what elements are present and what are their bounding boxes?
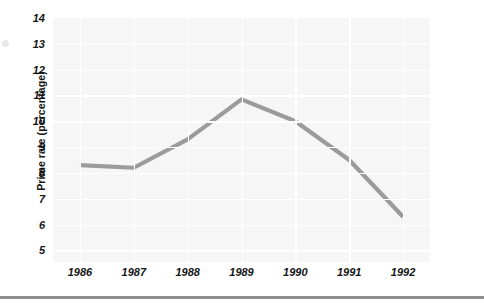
vertical-gridline [134, 18, 135, 262]
y-tick-label: 14 [33, 12, 45, 24]
x-tick-label: 1990 [283, 266, 307, 278]
x-tick-label: 1991 [337, 266, 361, 278]
vertical-gridline [349, 18, 350, 262]
y-tick-label: 6 [39, 219, 45, 231]
vertical-gridline [188, 18, 189, 262]
y-tick-label: 11 [34, 89, 45, 101]
y-tick-label: 12 [33, 64, 45, 76]
x-tick-label: 1992 [391, 266, 415, 278]
y-tick-label: 5 [39, 244, 45, 256]
x-tick-label: 1987 [122, 266, 146, 278]
prime-rate-line-chart: Prime rate (percentage) 141312111098765 … [0, 0, 484, 308]
x-tick-label: 1986 [68, 266, 92, 278]
vertical-gridline [242, 18, 243, 262]
y-axis-tick-labels: 141312111098765 [0, 0, 52, 308]
y-tick-label: 13 [33, 38, 45, 50]
y-tick-label: 9 [39, 141, 45, 153]
bottom-divider-rule [0, 296, 484, 299]
y-tick-label: 7 [39, 193, 45, 205]
x-tick-label: 1988 [175, 266, 199, 278]
x-axis-tick-labels: 1986198719881989199019911992 [53, 266, 430, 288]
y-tick-label: 8 [39, 167, 45, 179]
x-tick-label: 1989 [229, 266, 253, 278]
vertical-gridline [80, 18, 81, 262]
vertical-gridline [295, 18, 296, 262]
y-tick-label: 10 [33, 115, 45, 127]
plot-area [53, 18, 430, 262]
vertical-gridline [403, 18, 404, 262]
